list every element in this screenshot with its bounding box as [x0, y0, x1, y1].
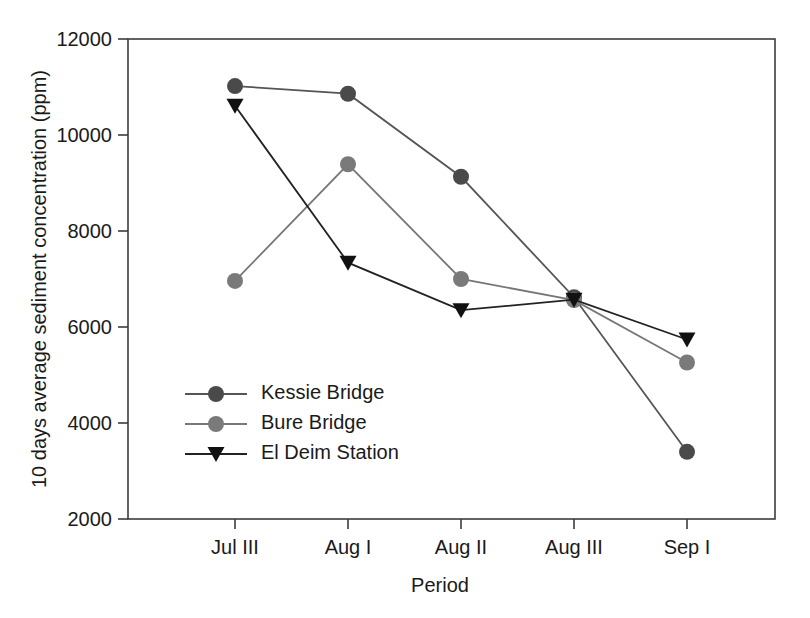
y-tick-label: 4000 [68, 412, 113, 434]
legend-label: El Deim Station [261, 441, 399, 463]
y-axis-title: 10 days average sediment concentration (… [28, 70, 50, 488]
legend-item-bure-bridge: Bure Bridge [185, 411, 367, 433]
y-tick-label: 12000 [56, 28, 112, 50]
legend-swatch-marker [208, 416, 224, 432]
y-tick-label: 2000 [68, 508, 113, 530]
data-point-marker [227, 273, 243, 289]
data-point-marker [340, 256, 357, 271]
data-point-marker [227, 78, 243, 94]
legend-label: Bure Bridge [261, 411, 367, 433]
chart-legend: Kessie BridgeBure BridgeEl Deim Station [185, 381, 399, 463]
x-tick-label: Aug III [545, 536, 603, 558]
data-point-marker [679, 444, 695, 460]
data-point-marker [453, 169, 469, 185]
y-tick-label: 10000 [56, 124, 112, 146]
legend-label: Kessie Bridge [261, 381, 384, 403]
data-point-marker [227, 99, 244, 114]
sediment-concentration-chart: 12000 10000 8000 6000 4000 2000 10 days … [0, 0, 810, 618]
data-point-marker [340, 86, 356, 102]
data-point-marker [679, 333, 696, 348]
y-tick-label: 8000 [68, 220, 113, 242]
data-point-marker [340, 156, 356, 172]
legend-item-kessie-bridge: Kessie Bridge [185, 381, 384, 403]
legend-swatch-marker [208, 386, 224, 402]
x-tick-label: Aug I [325, 536, 372, 558]
y-tick-label: 6000 [68, 316, 113, 338]
legend-item-el-deim-station: El Deim Station [185, 441, 399, 463]
data-point-marker [679, 355, 695, 371]
x-tick-label: Sep I [664, 536, 711, 558]
y-axis: 12000 10000 8000 6000 4000 2000 [56, 28, 128, 530]
chart-svg: 12000 10000 8000 6000 4000 2000 10 days … [0, 0, 810, 618]
data-point-marker [453, 303, 470, 318]
data-point-marker [453, 271, 469, 287]
plot-frame [128, 39, 775, 519]
x-axis-title: Period [411, 574, 469, 596]
x-axis: Jul III Aug I Aug II Aug III Sep I [211, 519, 710, 558]
x-tick-label: Jul III [211, 536, 259, 558]
series-bure-bridge [227, 156, 695, 370]
series-el-deim-station [227, 99, 696, 348]
series-line [235, 164, 687, 362]
x-tick-label: Aug II [435, 536, 487, 558]
